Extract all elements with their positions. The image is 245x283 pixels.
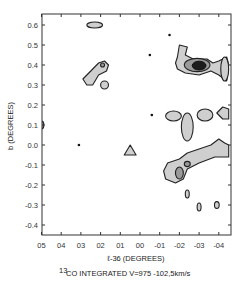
cloud-right-edge-upper [221,57,229,81]
x-axis: 050403020100-01-02-03-04 [37,14,224,250]
y-tick-label: 0.4 [28,61,38,70]
y-tick-label: 0.0 [28,141,38,150]
x-tick-label: 05 [37,241,45,250]
y-tick-label: -0.3 [25,201,38,210]
x-tick-label: -02 [174,241,185,250]
cloud-blob-2 [181,113,193,141]
x-axis-title: ℓ-36 (DEGREES) [106,254,165,263]
y-tick-label: 0.5 [28,41,38,50]
y-axis: 0.60.50.40.30.20.10.0-0.1-0.2-0.3-0.4 [25,21,231,230]
plot-frame [42,14,231,235]
y-tick-label: -0.4 [25,221,38,230]
cloud-top-left [87,22,103,28]
point-sources [78,34,171,147]
cloud-small-1 [185,190,189,198]
cloud-fish-core [101,63,105,67]
x-tick-label: 04 [57,241,65,250]
contour-chart: 050403020100-01-02-03-04 0.60.50.40.30.2… [0,0,245,283]
cloud-blob-3 [197,109,213,121]
cloud-small-3 [214,202,219,209]
x-tick-label: 01 [116,241,124,250]
cloud-ridge-core-1 [175,167,183,179]
cloud-main-core [192,61,206,70]
cloud-ridge [164,139,229,183]
y-tick-label: -0.1 [25,161,38,170]
chart-caption: CO INTEGRATED V=975 -102,5km/s [66,269,191,278]
cloud-ridge-core-2 [184,161,190,166]
y-tick-label: 0.1 [28,121,38,130]
point-source-3 [78,144,81,147]
cloud-small-circle [101,81,109,89]
y-tick-label: 0.2 [28,101,38,110]
contour-features [39,22,229,211]
y-tick-label: -0.2 [25,181,38,190]
x-tick-label: 03 [77,241,85,250]
cloud-blob-1 [166,111,182,121]
point-source-0 [149,54,152,57]
cloud-small-2 [197,203,201,211]
x-tick-label: 00 [136,241,144,250]
cloud-triangle [124,145,136,155]
y-tick-label: 0.3 [28,81,38,90]
x-tick-label: -01 [154,241,165,250]
point-source-1 [168,34,171,37]
y-tick-label: 0.6 [28,21,38,30]
x-tick-label: -03 [194,241,205,250]
point-source-2 [151,114,154,117]
cloud-blob-4 [217,107,229,119]
y-axis-title: b (DEGREES) [6,102,15,150]
x-tick-label: -04 [213,241,224,250]
x-tick-label: 02 [96,241,104,250]
